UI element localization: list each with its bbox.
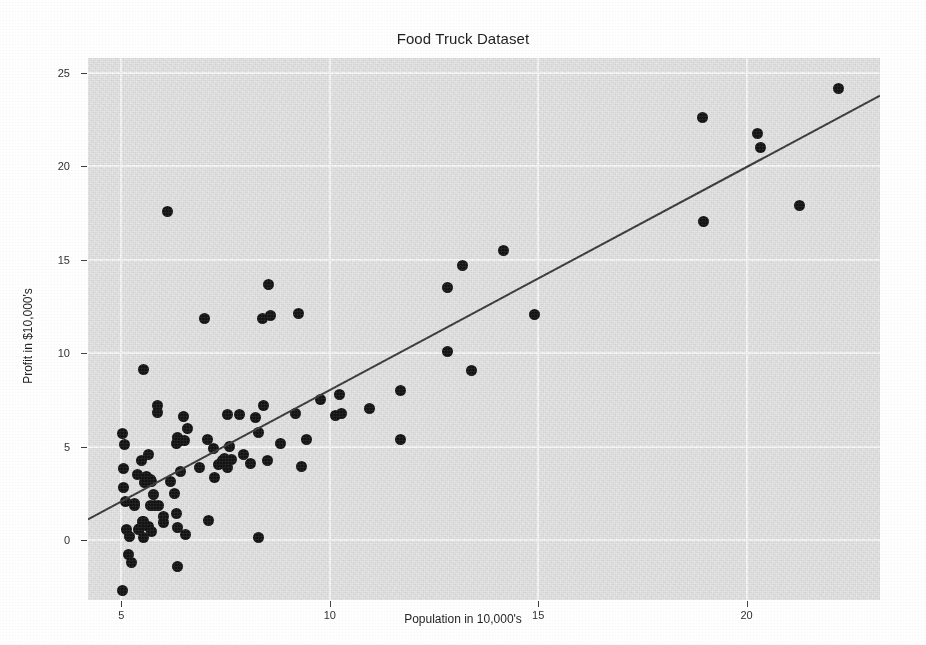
data-point — [698, 216, 709, 227]
data-point — [395, 385, 406, 396]
chart-title: Food Truck Dataset — [0, 30, 926, 47]
data-point — [172, 561, 183, 572]
data-point — [755, 142, 766, 153]
data-point — [209, 472, 220, 483]
data-point — [226, 454, 237, 465]
data-point — [208, 443, 219, 454]
data-point — [199, 313, 210, 324]
y-tick-mark — [81, 353, 87, 354]
data-point — [171, 508, 182, 519]
data-point — [124, 531, 135, 542]
regression-line — [88, 96, 880, 520]
data-point — [293, 308, 304, 319]
data-point — [178, 411, 189, 422]
y-axis-label: Profit in $10,000's — [21, 226, 35, 446]
data-point — [752, 128, 763, 139]
data-point — [203, 515, 214, 526]
data-point — [395, 434, 406, 445]
data-point — [162, 206, 173, 217]
data-point — [258, 400, 269, 411]
gridline-horizontal — [88, 446, 880, 448]
data-point — [466, 365, 477, 376]
data-point — [334, 389, 345, 400]
x-tick-mark — [330, 601, 331, 607]
data-point — [296, 461, 307, 472]
gridline-vertical — [537, 58, 539, 600]
data-point — [301, 434, 312, 445]
y-tick-mark — [81, 166, 87, 167]
data-point — [442, 346, 453, 357]
data-point — [336, 408, 347, 419]
data-point — [117, 428, 128, 439]
y-tick-label: 15 — [46, 254, 70, 266]
data-point — [119, 439, 130, 450]
data-point — [129, 498, 140, 509]
x-axis-label: Population in 10,000's — [0, 612, 926, 626]
data-point — [290, 408, 301, 419]
data-point — [457, 260, 468, 271]
data-point — [253, 532, 264, 543]
data-point — [179, 435, 190, 446]
gridline-horizontal — [88, 352, 880, 354]
data-point — [158, 517, 169, 528]
y-tick-label: 5 — [46, 441, 70, 453]
y-tick-label: 25 — [46, 67, 70, 79]
gridline-horizontal — [88, 72, 880, 74]
gridline-vertical — [120, 58, 122, 600]
data-point — [250, 412, 261, 423]
data-point — [245, 458, 256, 469]
data-point — [697, 112, 708, 123]
data-point — [253, 427, 264, 438]
x-tick-mark — [538, 601, 539, 607]
data-point — [442, 282, 453, 293]
data-point — [263, 279, 274, 290]
data-point — [182, 423, 193, 434]
data-point — [315, 394, 326, 405]
y-tick-label: 20 — [46, 160, 70, 172]
gridline-horizontal — [88, 539, 880, 541]
data-point — [143, 449, 154, 460]
x-tick-mark — [121, 601, 122, 607]
y-tick-mark — [81, 540, 87, 541]
data-point — [117, 585, 128, 596]
y-tick-mark — [81, 447, 87, 448]
gridline-vertical — [329, 58, 331, 600]
y-tick-label: 10 — [46, 347, 70, 359]
data-point — [234, 409, 245, 420]
data-point — [118, 482, 129, 493]
data-point — [262, 455, 273, 466]
gridline-horizontal — [88, 165, 880, 167]
data-point — [265, 310, 276, 321]
data-point — [118, 463, 129, 474]
data-point — [224, 441, 235, 452]
data-point — [833, 83, 844, 94]
x-tick-mark — [747, 601, 748, 607]
data-point — [165, 476, 176, 487]
data-point — [148, 489, 159, 500]
y-tick-mark — [81, 260, 87, 261]
data-point — [194, 462, 205, 473]
data-point — [222, 409, 233, 420]
data-point — [175, 466, 186, 477]
data-point — [364, 403, 375, 414]
data-point — [138, 364, 149, 375]
y-tick-mark — [81, 73, 87, 74]
chart-figure: Food Truck Dataset 05101520255101520 Pop… — [0, 0, 926, 645]
data-point — [123, 549, 134, 560]
data-point — [794, 200, 805, 211]
gridline-horizontal — [88, 259, 880, 261]
data-point — [169, 488, 180, 499]
plot-panel — [88, 58, 880, 600]
y-tick-label: 0 — [46, 534, 70, 546]
gridline-vertical — [746, 58, 748, 600]
data-point — [498, 245, 509, 256]
